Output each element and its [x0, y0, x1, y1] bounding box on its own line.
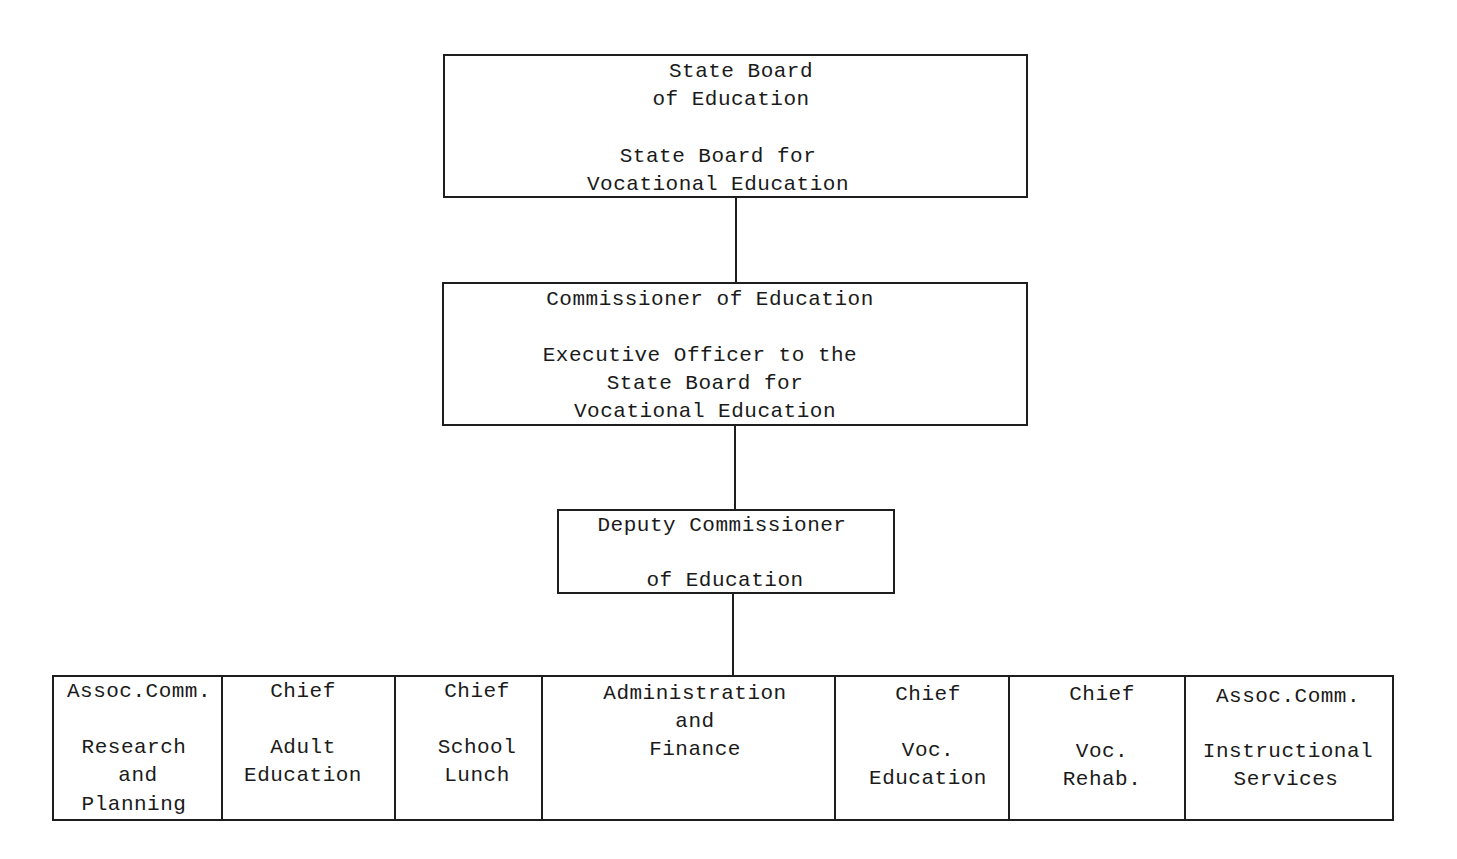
division-line1: Research: [54, 734, 214, 762]
division-line2: and: [54, 762, 222, 790]
division-title: Assoc.Comm.: [56, 678, 222, 706]
executive-officer-line3: Vocational Education: [550, 398, 860, 426]
executive-officer-line1: Executive Officer to the: [520, 342, 880, 370]
deputy-title-line2: of Education: [635, 567, 815, 595]
deputy-commissioner-box: Deputy Commissioner of Education: [557, 509, 895, 594]
state-board-box: State Board of Education State Board for…: [443, 54, 1028, 198]
division-line2: Education: [223, 762, 383, 790]
division-line3: Planning: [54, 791, 214, 819]
division-line2: Lunch: [396, 762, 558, 790]
division-line2: Services: [1186, 766, 1386, 794]
division-administration-finance: Administration and Finance: [543, 677, 834, 819]
connector-commissioner-deputy: [734, 425, 736, 510]
division-research-planning: Assoc.Comm. Research and Planning: [54, 677, 222, 819]
division-title: Chief: [836, 681, 1020, 709]
division-line2: Finance: [543, 736, 847, 764]
vocational-board-line2: Vocational Education: [563, 171, 873, 199]
division-line1: Voc.: [836, 737, 1020, 765]
division-instructional-services: Assoc.Comm. Instructional Services: [1186, 677, 1394, 819]
division-line1: Instructional: [1186, 738, 1390, 766]
division-title: Administration: [543, 680, 847, 708]
division-title: Chief: [223, 678, 383, 706]
division-line2: Education: [836, 765, 1020, 793]
executive-officer-line2: State Board for: [590, 370, 820, 398]
division-vocational-education: Chief Voc. Education: [836, 677, 1008, 819]
division-vocational-rehabilitation: Chief Voc. Rehab.: [1010, 677, 1184, 819]
deputy-title-line1: Deputy Commissioner: [577, 512, 867, 540]
division-title: Chief: [396, 678, 558, 706]
division-adult-education: Chief Adult Education: [223, 677, 394, 819]
division-line2: Rehab.: [1010, 766, 1194, 794]
state-board-title-line2: of Education: [621, 86, 841, 114]
division-line1: and: [543, 708, 847, 736]
vocational-board-line1: State Board for: [603, 143, 833, 171]
commissioner-title: Commissioner of Education: [520, 286, 900, 314]
division-line1: Voc.: [1010, 738, 1194, 766]
connector-board-commissioner: [735, 197, 737, 283]
division-line1: Adult: [223, 734, 383, 762]
connector-deputy-divisions: [732, 593, 734, 676]
state-board-title-line1: State Board: [631, 58, 851, 86]
division-title: Assoc.Comm.: [1186, 683, 1390, 711]
division-title: Chief: [1010, 681, 1194, 709]
division-school-lunch: Chief School Lunch: [396, 677, 541, 819]
divisions-row: Assoc.Comm. Research and Planning Chief …: [52, 675, 1394, 821]
commissioner-box: Commissioner of Education Executive Offi…: [442, 282, 1028, 426]
division-line1: School: [396, 734, 558, 762]
